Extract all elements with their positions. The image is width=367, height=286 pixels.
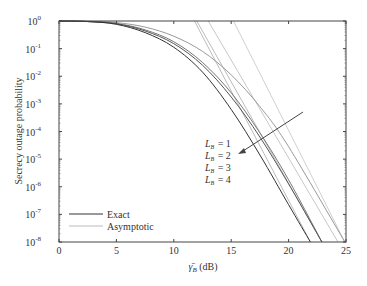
curve-exact-l-b-2 bbox=[59, 21, 322, 242]
y-tick-label: 10-3 bbox=[25, 97, 41, 110]
x-axis-ticks: 0510152025 bbox=[57, 21, 352, 256]
y-axis-label: Secrecy outage probability bbox=[13, 77, 24, 184]
x-tick-label: 10 bbox=[169, 245, 179, 256]
legend: Exact Asymptotic bbox=[69, 209, 154, 232]
y-tick-label: 10-1 bbox=[25, 42, 41, 55]
x-axis-label: γ̄B (dB) bbox=[188, 261, 217, 274]
y-tick-label: 10-6 bbox=[25, 180, 41, 193]
curve-exact-l-b-4 bbox=[59, 21, 345, 242]
x-tick-label: 20 bbox=[284, 245, 294, 256]
x-tick-label: 5 bbox=[114, 245, 119, 256]
curve-exact-l-b-3 bbox=[59, 21, 322, 242]
annotation-label-lb2: LB = 2 bbox=[204, 150, 231, 162]
annotation-label-lb3: LB = 3 bbox=[204, 162, 231, 174]
arrowhead-icon bbox=[238, 148, 246, 154]
curve-asymptotic-l-b-1 bbox=[194, 21, 310, 242]
x-tick-label: 0 bbox=[57, 245, 62, 256]
annotation-label-lb4: LB = 4 bbox=[204, 174, 231, 186]
y-tick-label: 10-5 bbox=[25, 152, 41, 165]
y-tick-label: 10-7 bbox=[25, 207, 41, 220]
y-tick-label: 10-2 bbox=[25, 69, 41, 82]
y-tick-label: 100 bbox=[28, 14, 42, 27]
plot-curves bbox=[59, 21, 345, 242]
annotation-label-lb1: LB = 1 bbox=[204, 138, 231, 150]
x-tick-label: 25 bbox=[341, 245, 351, 256]
y-tick-label: 10-4 bbox=[25, 125, 41, 138]
secrecy-outage-chart: 0510152025 10010-110-210-310-410-510-610… bbox=[0, 0, 367, 286]
y-tick-label: 10-8 bbox=[25, 235, 41, 248]
x-tick-label: 15 bbox=[226, 245, 236, 256]
legend-exact-label: Exact bbox=[107, 209, 130, 220]
legend-asymptotic-label: Asymptotic bbox=[107, 221, 154, 232]
curve-asymptotic-l-b-4 bbox=[233, 21, 344, 242]
